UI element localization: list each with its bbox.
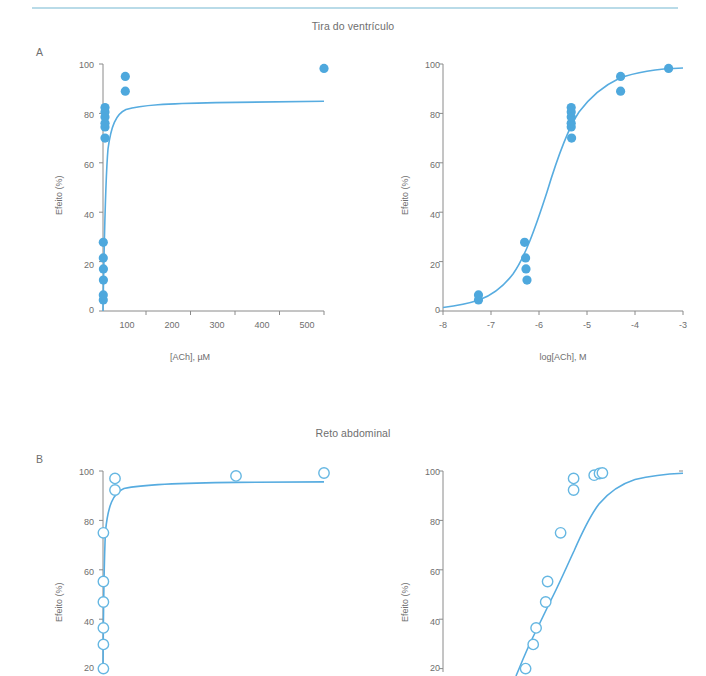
plot-b-right-ytick-100: 100 xyxy=(418,467,440,477)
plot-b-right-ylabel: Efeito (%) xyxy=(400,582,410,622)
panel-a-letter: A xyxy=(36,46,43,58)
plot-a-right-ytick-100: 100 xyxy=(418,60,440,70)
plot-a-left-fit-curve xyxy=(103,101,324,311)
plot-a-right-ytick-80: 80 xyxy=(418,110,440,120)
plot-b-right-ytick-20: 20 xyxy=(418,663,440,673)
plot-b-right-ytick-80: 80 xyxy=(418,517,440,527)
plot-a-left-ytick-40: 40 xyxy=(72,210,94,220)
plot-a-right-ytick-40: 40 xyxy=(418,210,440,220)
plot-b-left-ytick-40: 40 xyxy=(72,617,94,627)
plot-b-left-points xyxy=(98,468,329,674)
plot-a-right-points xyxy=(474,64,673,305)
plot-a-left-xlabel: [ACh], µM xyxy=(140,352,240,362)
plot-a-right-canvas xyxy=(443,64,706,334)
plot-b-left-ytick-80: 80 xyxy=(72,517,94,527)
plot-a-right-ytick-0: 0 xyxy=(418,305,440,315)
panel-b-title: Reto abdominal xyxy=(0,427,706,439)
plot-a-left-canvas xyxy=(96,64,376,334)
panel-b-letter: B xyxy=(36,453,43,465)
plot-a-right-ytick-20: 20 xyxy=(418,260,440,270)
plot-a-right-ylabel: Efeito (%) xyxy=(400,175,410,215)
plot-a-left-ytick-0: 0 xyxy=(72,305,94,315)
plot-a-left-ytick-80: 80 xyxy=(72,110,94,120)
plot-a-left-ytick-60: 60 xyxy=(72,160,94,170)
plot-a-left-ytick-20: 20 xyxy=(72,260,94,270)
plot-b-right-ytick-60: 60 xyxy=(418,567,440,577)
plot-a-right-ytick-60: 60 xyxy=(418,160,440,170)
plot-b-right-points xyxy=(520,468,607,674)
panel-a-title: Tira do ventrículo xyxy=(0,20,706,32)
plot-a-left-points xyxy=(99,64,329,305)
plot-a-left-ylabel: Efeito (%) xyxy=(54,175,64,215)
plot-b-left-ytick-100: 100 xyxy=(72,467,94,477)
plot-b-left-ytick-20: 20 xyxy=(72,663,94,673)
plot-a-right-axes xyxy=(439,64,683,315)
plot-a-right-xlabel: log[ACh], M xyxy=(513,352,613,362)
plot-a-left-ytick-100: 100 xyxy=(72,60,94,70)
plot-a-right-fit-curve xyxy=(443,68,683,308)
plot-b-right-canvas xyxy=(443,471,706,676)
top-divider-rule xyxy=(32,7,678,9)
plot-b-left-ylabel: Efeito (%) xyxy=(54,582,64,622)
plot-b-left-ytick-60: 60 xyxy=(72,567,94,577)
plot-b-right-fit-curve xyxy=(516,473,683,676)
plot-b-left-fit-curve xyxy=(103,482,324,672)
plot-b-right-axes xyxy=(439,471,683,672)
plot-b-right-ytick-40: 40 xyxy=(418,617,440,627)
plot-b-left-canvas xyxy=(96,471,376,676)
